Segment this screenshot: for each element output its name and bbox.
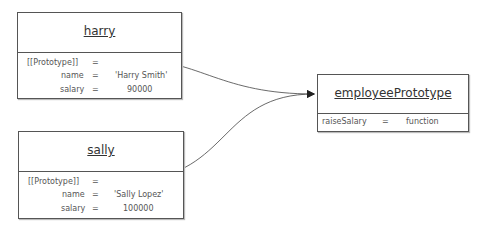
field-value: function bbox=[406, 117, 439, 126]
field-name: raiseSalary bbox=[322, 117, 367, 126]
field-name: salary bbox=[61, 204, 85, 213]
object-box-sally: sally [[Prototype]] = name = 'Sally Lope… bbox=[18, 131, 184, 219]
prototype-label: [[Prototype]] bbox=[28, 177, 79, 186]
field-name: name bbox=[62, 190, 85, 199]
field-value: 90000 bbox=[127, 85, 152, 94]
equals: = bbox=[92, 58, 99, 67]
field-value: 100000 bbox=[123, 204, 154, 213]
equals: = bbox=[382, 117, 389, 126]
object-title: sally bbox=[19, 143, 183, 157]
object-title: harry bbox=[18, 24, 181, 38]
field-name: salary bbox=[60, 85, 84, 94]
field-name: name bbox=[61, 71, 84, 80]
equals: = bbox=[92, 71, 99, 80]
field-value: 'Sally Lopez' bbox=[114, 190, 164, 199]
equals: = bbox=[92, 204, 99, 213]
divider bbox=[318, 113, 468, 114]
prototype-label: [[Prototype]] bbox=[27, 58, 78, 67]
divider bbox=[19, 171, 183, 172]
divider bbox=[18, 52, 181, 53]
object-box-harry: harry [[Prototype]] = name = 'Harry Smit… bbox=[17, 12, 182, 99]
equals: = bbox=[92, 190, 99, 199]
object-box-employee-prototype: employeePrototype raiseSalary = function bbox=[317, 74, 469, 132]
field-value: 'Harry Smith' bbox=[115, 71, 167, 80]
object-title: employeePrototype bbox=[318, 86, 468, 100]
equals: = bbox=[92, 85, 99, 94]
equals: = bbox=[92, 177, 99, 186]
